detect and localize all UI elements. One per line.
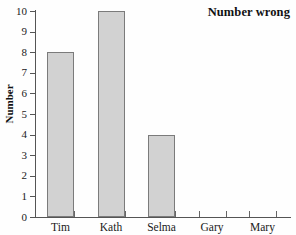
y-tick-label-7: 7 (0, 67, 27, 78)
x-tick-kath-right (125, 211, 126, 217)
y-tick-label-1: 1 (0, 191, 27, 202)
x-tick-gary-left (199, 211, 200, 217)
y-tick-9 (30, 32, 35, 33)
y-tick-label-10: 10 (0, 6, 27, 17)
y-tick-10 (30, 11, 35, 12)
y-tick-4 (30, 135, 35, 136)
x-tick-gary-right (226, 211, 227, 217)
y-tick-label-2: 2 (0, 170, 27, 181)
y-tick-3 (30, 155, 35, 156)
y-tick-label-3: 3 (0, 150, 27, 161)
y-axis-title: Number (3, 74, 15, 134)
y-tick-label-5: 5 (0, 109, 27, 120)
x-tick-mary-right (276, 211, 277, 217)
bar-selma (148, 135, 175, 217)
x-axis-line (33, 217, 291, 218)
chart-title: Number wrong (208, 5, 290, 20)
y-tick-5 (30, 114, 35, 115)
y-tick-7 (30, 73, 35, 74)
y-tick-6 (30, 93, 35, 94)
bar-tim (47, 52, 74, 217)
y-tick-1 (30, 196, 35, 197)
y-axis-line (35, 10, 36, 218)
y-tick-8 (30, 52, 35, 53)
y-tick-label-8: 8 (0, 47, 27, 58)
y-tick-label-4: 4 (0, 129, 27, 140)
x-tick-mary-left (249, 211, 250, 217)
y-tick-2 (30, 176, 35, 177)
y-tick-label-6: 6 (0, 88, 27, 99)
bar-kath (98, 11, 125, 217)
y-tick-0 (30, 217, 35, 218)
y-tick-label-9: 9 (0, 26, 27, 37)
x-tick-tim-right (74, 211, 75, 217)
y-tick-label-0: 0 (0, 212, 27, 223)
x-label-mary: Mary (231, 220, 295, 234)
bar-chart: Number wrong Number 012345678910 TimKath… (0, 0, 296, 235)
x-tick-selma-right (175, 211, 176, 217)
